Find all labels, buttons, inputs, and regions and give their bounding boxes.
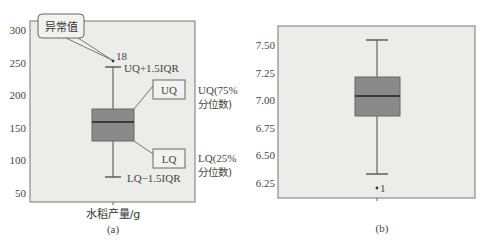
panel-b: 7.50 7.25 7.00 6.75 6.50 6.25 1 (b) [256,26,475,235]
uq-note-line1: UQ(75% [198,84,238,97]
y-axis-a: 300 250 200 150 100 50 [10,24,27,199]
uq-note-line2: 分位数) [198,98,232,110]
ytick-label: 6.25 [256,177,276,189]
panel-label-b: (b) [376,222,389,235]
lq-note-line1: LQ(25% [198,152,237,165]
uq-label: UQ [161,84,177,96]
panel-a: 300 250 200 150 100 50 18 异常值 UQ+1.5IQR … [10,14,238,236]
ytick-label: 100 [10,154,27,166]
ytick-label: 7.25 [256,67,276,79]
y-axis-b: 7.50 7.25 7.00 6.75 6.50 6.25 [256,39,276,189]
figure: 300 250 200 150 100 50 18 异常值 UQ+1.5IQR … [0,0,485,243]
ytick-label: 6.75 [256,122,276,134]
lower-fence-label: LQ−1.5IQR [127,172,181,184]
outlier-label: 18 [116,50,128,62]
lq-label: LQ [162,153,177,165]
outlier-callout-text: 异常值 [45,21,78,34]
ytick-label: 50 [15,187,27,199]
lq-note-line2: 分位数) [198,166,232,178]
ytick-label: 150 [10,122,27,134]
ytick-label: 7.50 [256,39,276,51]
ytick-label: 6.50 [256,149,276,161]
upper-fence-label: UQ+1.5IQR [124,62,179,74]
outlier-label: 1 [380,182,386,194]
ytick-label: 250 [10,57,27,69]
ytick-label: 300 [10,24,27,36]
iqr-box [92,109,134,141]
ytick-label: 200 [10,89,27,101]
panel-label-a: (a) [107,223,120,236]
x-axis-label-a: 水稻产量/g [86,207,141,221]
outlier-point [376,187,379,190]
ytick-label: 7.00 [256,94,276,106]
